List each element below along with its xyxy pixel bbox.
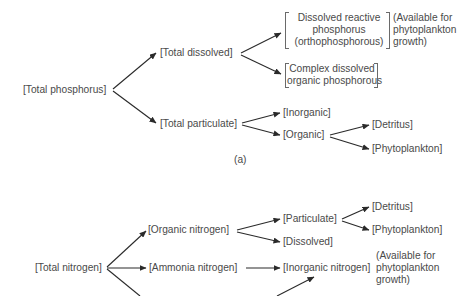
text-line: Dissolved reactive [289,12,389,24]
node-inorganic: [Inorganic] [283,107,331,119]
node-phytoplankton-a: [Phytoplankton] [372,143,442,155]
node-dissolved-reactive-phosphorus: Dissolved reactive phosphorus (orthophos… [289,12,389,48]
arrow-offscreen-to-inorganic [277,277,314,296]
text-line: phosphorus [289,24,389,36]
text-line: (Available for [376,250,439,262]
arrow-particulate-to-organic [242,125,280,135]
text-line: phytoplankton [376,262,439,274]
note-available-phosphorus: (Available for phytoplankton growth) [393,12,456,48]
bracket-right [386,12,390,49]
arrow-particulate-to-detritus [342,207,369,219]
node-organic-nitrogen: [Organic nitrogen] [148,224,229,236]
text-line: phytoplankton [393,24,456,36]
arrow-nitrogen-to-offscreen [107,269,140,296]
node-total-dissolved: [Total dissolved] [160,47,232,59]
text-line: (orthophosphorous) [289,36,389,48]
text-line: growth) [376,274,439,286]
node-dissolved: [Dissolved] [283,236,333,248]
nutrient-fraction-diagrams: [Total phosphorus] [Total dissolved] [To… [0,0,475,296]
arrow-phosphorus-to-particulate [113,91,156,123]
node-phytoplankton-b: [Phytoplankton] [372,224,442,236]
text-line: (Available for [393,12,456,24]
arrow-phosphorus-to-dissolved [113,53,156,89]
arrow-organic-to-dissolved [237,232,280,242]
node-organic: [Organic] [283,129,324,141]
node-total-nitrogen: [Total nitrogen] [35,262,102,274]
text-line: organic phosphorous [287,75,377,87]
arrow-organic-to-detritus [330,125,369,135]
note-available-nitrogen: (Available for phytoplankton growth) [376,250,439,286]
node-detritus-b: [Detritus] [372,201,413,213]
node-total-particulate: [Total particulate] [160,118,237,130]
node-detritus-a: [Detritus] [372,119,413,131]
arrow-dissolved-to-complex [241,55,281,74]
arrow-dissolved-to-reactive [241,33,281,53]
node-complex-dissolved-organic-phosphorous: Complex dissolved organic phosphorous [287,63,377,87]
arrow-particulate-to-phytoplankton [342,221,369,230]
arrow-organic-to-particulate [237,219,280,230]
arrow-organic-to-phytoplankton [330,137,369,149]
text-line: Complex dissolved [287,63,377,75]
bracket-right [374,63,378,88]
node-total-phosphorus: [Total phosphorus] [23,84,106,96]
caption-a: (a) [234,154,246,166]
node-inorganic-nitrogen: [Inorganic nitrogen] [283,262,370,274]
node-ammonia-nitrogen: [Ammonia nitrogen] [149,262,237,274]
arrow-particulate-to-inorganic [242,113,280,123]
node-particulate: [Particulate] [283,213,337,225]
text-line: growth) [393,36,456,48]
arrow-nitrogen-to-organic [107,231,146,267]
